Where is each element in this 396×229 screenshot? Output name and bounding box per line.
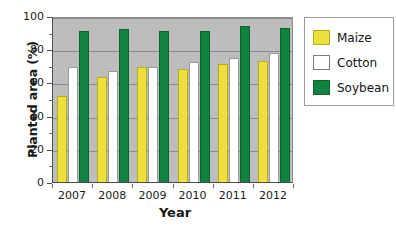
bar-maize-2012 — [258, 61, 268, 182]
x-axis-title: Year — [50, 205, 300, 220]
bars-layer — [53, 18, 292, 182]
bar-maize-2008 — [97, 77, 107, 182]
legend-item-cotton: Cotton — [313, 50, 393, 75]
bar-maize-2011 — [218, 64, 228, 182]
x-axis-tick — [92, 184, 93, 188]
bar-cotton-2007 — [68, 67, 78, 182]
legend-item-maize: Maize — [313, 25, 393, 50]
bar-cotton-2010 — [189, 62, 199, 182]
bar-soybean-2008 — [119, 29, 129, 182]
bar-maize-2010 — [178, 69, 188, 182]
bar-maize-2009 — [137, 67, 147, 182]
x-axis-tick — [52, 184, 53, 188]
chart-legend: Maize Cotton Soybean — [304, 17, 394, 106]
legend-label-soybean: Soybean — [337, 81, 389, 95]
legend-swatch-cotton-icon — [313, 55, 330, 70]
bar-cotton-2009 — [148, 67, 158, 182]
bar-group — [93, 18, 133, 182]
bar-soybean-2011 — [240, 26, 250, 182]
x-axis-tick — [293, 184, 294, 188]
y-axis-tick-label: 40 — [4, 110, 44, 123]
x-axis-tick — [132, 184, 133, 188]
y-axis-tick-label: 20 — [4, 143, 44, 156]
legend-label-cotton: Cotton — [337, 56, 377, 70]
bar-maize-2007 — [57, 96, 67, 182]
y-axis-tick-label: 0 — [4, 176, 44, 189]
bar-soybean-2012 — [280, 28, 290, 182]
bar-soybean-2010 — [200, 31, 210, 182]
y-axis-title: Planted area (%) — [25, 15, 40, 185]
bar-group — [214, 18, 254, 182]
x-axis-tick — [173, 184, 174, 188]
x-axis-tick — [253, 184, 254, 188]
bar-group — [53, 18, 93, 182]
bar-group — [254, 18, 294, 182]
plot-area — [52, 17, 293, 183]
legend-item-soybean: Soybean — [313, 75, 393, 100]
x-axis-tick-label: 2008 — [89, 189, 135, 202]
bar-soybean-2009 — [159, 31, 169, 182]
x-axis-tick-label: 2010 — [170, 189, 216, 202]
legend-swatch-soybean-icon — [313, 80, 330, 95]
y-axis-tick-label: 80 — [4, 43, 44, 56]
bar-group — [174, 18, 214, 182]
y-axis-tick-label: 60 — [4, 76, 44, 89]
legend-swatch-maize-icon — [313, 30, 330, 45]
bar-cotton-2008 — [108, 71, 118, 182]
bar-cotton-2012 — [269, 53, 279, 182]
x-axis-tick-label: 2007 — [49, 189, 95, 202]
x-axis-tick-label: 2012 — [250, 189, 296, 202]
bar-group — [133, 18, 173, 182]
bar-chart-figure: Planted area (%) Year 020406080100 20072… — [0, 0, 396, 229]
x-axis-tick — [213, 184, 214, 188]
bar-soybean-2007 — [79, 31, 89, 182]
x-axis-tick-label: 2011 — [210, 189, 256, 202]
x-axis-tick-label: 2009 — [129, 189, 175, 202]
legend-label-maize: Maize — [337, 31, 372, 45]
bar-cotton-2011 — [229, 58, 239, 183]
y-axis-tick-label: 100 — [4, 10, 44, 23]
